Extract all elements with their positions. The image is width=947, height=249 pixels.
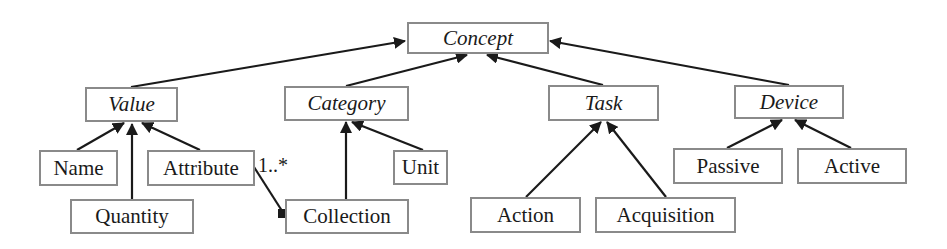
class-label: Active: [824, 154, 880, 179]
edge-action-task: [526, 122, 601, 197]
class-passive: Passive: [673, 148, 783, 184]
multiplicity-label: 1..*: [258, 154, 288, 177]
class-label: Action: [497, 203, 554, 228]
class-quantity: Quantity: [70, 199, 194, 234]
uml-class-diagram: Concept Value Category Task Device Name …: [0, 0, 947, 249]
class-label: Quantity: [95, 204, 169, 229]
edge-attribute-value: [142, 123, 200, 150]
class-label: Category: [307, 91, 385, 116]
class-unit: Unit: [393, 150, 448, 185]
class-label: Device: [760, 90, 818, 115]
class-label: Attribute: [163, 156, 239, 181]
class-label: Unit: [402, 155, 439, 180]
class-value: Value: [85, 87, 178, 122]
class-category: Category: [284, 86, 409, 121]
class-label: Task: [585, 91, 623, 116]
edge-passive-device: [727, 120, 782, 148]
edge-device-concept: [550, 41, 789, 85]
class-label: Collection: [303, 204, 391, 229]
edge-name-value: [77, 123, 124, 150]
class-acquisition: Acquisition: [595, 197, 736, 233]
class-name: Name: [39, 150, 118, 186]
class-label: Concept: [443, 26, 513, 51]
edge-value-concept: [131, 41, 405, 87]
class-label: Value: [108, 92, 155, 117]
class-action: Action: [470, 197, 581, 233]
class-active: Active: [797, 148, 907, 184]
class-attribute: Attribute: [147, 150, 255, 186]
edge-active-device: [795, 120, 851, 148]
class-task: Task: [548, 85, 659, 121]
class-label: Acquisition: [617, 203, 715, 228]
class-label: Name: [53, 156, 103, 181]
class-concept: Concept: [407, 22, 549, 54]
edge-category-concept: [346, 55, 467, 86]
edge-unit-category: [352, 122, 423, 150]
edge-acquisition-task: [607, 122, 666, 197]
edge-task-concept: [487, 55, 603, 85]
class-collection: Collection: [285, 199, 409, 234]
class-label: Passive: [697, 154, 760, 179]
class-device: Device: [734, 85, 844, 119]
